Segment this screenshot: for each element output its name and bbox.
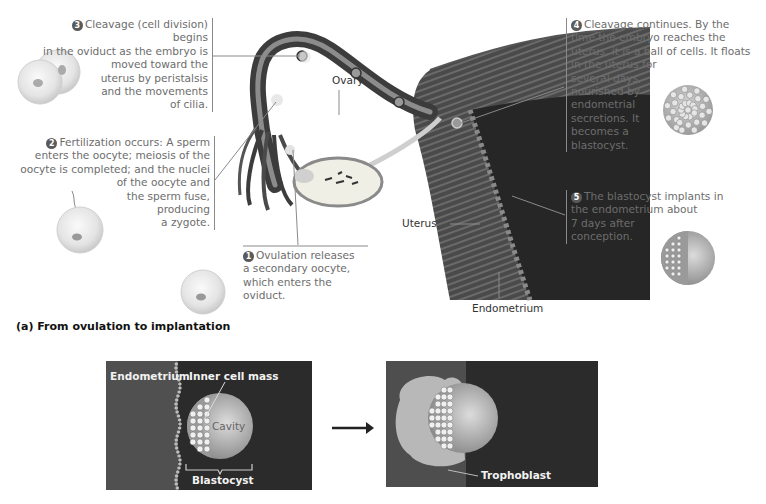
step-2-badge: 2	[46, 138, 57, 149]
step-1-caption: 1Ovulation releases a secondary oocyte, …	[243, 249, 373, 303]
cell	[677, 254, 681, 258]
inner-cell-mass-cell	[197, 425, 203, 431]
step-4-caption: 4Cleavage continues. By the time the emb…	[566, 18, 761, 152]
endometrium-cell	[176, 394, 180, 398]
cell	[677, 266, 681, 270]
inner-cell-mass-cell	[441, 422, 447, 428]
inner-cell-mass-cell	[441, 415, 447, 421]
endometrium-cell	[178, 422, 182, 426]
endometrium-cell	[177, 414, 181, 418]
inner-cell-mass-cell	[435, 429, 441, 435]
endometrium-cell	[177, 466, 181, 470]
cell	[677, 260, 681, 264]
inner-cell-mass-cell	[429, 408, 435, 414]
endometrium-cell	[174, 406, 178, 410]
trophoblast-label: Trophoblast	[481, 469, 551, 481]
inner-cell-mass-cell	[204, 439, 210, 445]
endometrium-cell	[175, 446, 179, 450]
step-1-badge: 1	[243, 251, 254, 262]
inner-cell-mass-cell	[447, 422, 453, 428]
inner-cell-mass-cell	[435, 408, 441, 414]
step-2-caption: 2Fertilization occurs: A sperm enters th…	[20, 136, 215, 230]
inner-cell-mass-cell	[197, 418, 203, 424]
endometrium-cell	[176, 450, 180, 454]
blastocyst-label: Blastocyst	[192, 474, 254, 486]
inner-cell-mass-cell	[435, 394, 441, 400]
inner-cell-mass-cell	[447, 436, 453, 442]
inner-cell-mass-cell	[204, 397, 210, 403]
inner-cell-mass-cell	[447, 429, 453, 435]
endometrium-cell	[178, 382, 182, 386]
endometrium-cell	[174, 402, 178, 406]
endometrium-cell	[177, 390, 181, 394]
inner-cell-mass-cell	[435, 422, 441, 428]
bottom-endometrium-label: Endometrium	[110, 370, 190, 382]
step-5-badge: 5	[571, 192, 582, 203]
endometrium-label: Endometrium	[472, 302, 543, 314]
endometrium-cell	[174, 442, 178, 446]
inner-cell-mass-cell	[204, 446, 210, 452]
step-4-badge: 4	[571, 20, 582, 31]
inner-cell-mass-cell	[429, 422, 435, 428]
endometrium-cell	[177, 430, 181, 434]
inner-cell-mass-cell	[197, 404, 203, 410]
inner-cell-mass-cell	[447, 387, 453, 393]
endometrium-cell	[178, 386, 182, 390]
inner-cell-mass-cell	[435, 436, 441, 442]
cell	[665, 254, 669, 258]
inner-cell-mass-cell	[197, 411, 203, 417]
inner-cell-mass-cell	[447, 408, 453, 414]
inner-cell-mass-cell	[441, 436, 447, 442]
endometrium-cell	[175, 398, 179, 402]
endometrium-cell	[174, 438, 178, 442]
step-3-badge: 3	[72, 20, 83, 31]
cell	[677, 272, 681, 276]
endometrium-cell	[177, 454, 181, 458]
inner-cell-mass-cell	[441, 401, 447, 407]
cell	[665, 248, 669, 252]
panel-a-title: (a) From ovulation to implantation	[16, 320, 230, 333]
endometrium-cell	[175, 482, 179, 486]
inner-cell-mass-label: Inner cell mass	[189, 370, 279, 382]
inner-cell-mass-cell	[447, 415, 453, 421]
ovary-label: Ovary	[332, 74, 363, 86]
endometrium-cell	[175, 410, 179, 414]
endometrium-cell	[176, 486, 180, 490]
inner-cell-mass-cell	[441, 408, 447, 414]
endometrium-cell	[175, 474, 179, 478]
inner-cell-mass-cell	[441, 387, 447, 393]
cell	[665, 260, 669, 264]
cell	[677, 248, 681, 252]
inner-cell-mass-cell	[441, 429, 447, 435]
cell	[671, 272, 675, 276]
inner-cell-mass-cell	[190, 418, 196, 424]
endometrium-cell	[175, 362, 179, 366]
endometrium-cell	[175, 434, 179, 438]
inner-cell-mass-cell	[447, 401, 453, 407]
cavity-label: Cavity	[212, 420, 245, 432]
inner-cell-mass-cell	[197, 439, 203, 445]
inner-cell-mass-cell	[197, 446, 203, 452]
inner-cell-mass-cell	[441, 443, 447, 449]
endometrium-cell	[178, 458, 182, 462]
inner-cell-mass-cell	[429, 415, 435, 421]
step-5-caption: 5The blastocyst implants in the endometr…	[566, 190, 751, 244]
inner-cell-mass-cell	[204, 425, 210, 431]
cell	[671, 254, 675, 258]
endometrium-cell	[176, 470, 180, 474]
endometrium-cell	[178, 418, 182, 422]
uterus-label: Uterus	[402, 217, 437, 229]
inner-cell-mass-cell	[441, 394, 447, 400]
cell	[665, 266, 669, 270]
cell	[671, 266, 675, 270]
secondary-oocyte	[181, 270, 225, 314]
inner-cell-mass-cell	[190, 439, 196, 445]
inner-cell-mass-cell	[435, 401, 441, 407]
inner-cell-mass-cell	[204, 404, 210, 410]
cell	[671, 248, 675, 252]
inner-cell-mass-cell	[197, 432, 203, 438]
inner-cell-mass-cell	[190, 425, 196, 431]
cell	[671, 260, 675, 264]
step-3-caption: 3Cleavage (cell division) begins in the …	[40, 18, 213, 112]
inner-cell-mass-cell	[190, 432, 196, 438]
